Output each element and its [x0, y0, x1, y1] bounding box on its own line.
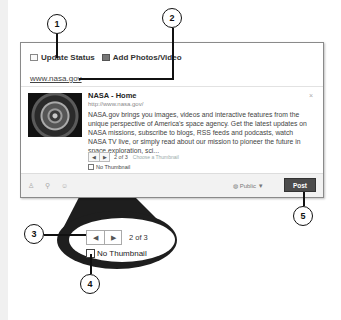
emoji-icon[interactable]: ☺	[61, 182, 68, 190]
no-thumbnail-option[interactable]: No Thumbnail	[88, 164, 130, 170]
leader-line-3	[44, 234, 86, 236]
callout-3: 3	[24, 224, 44, 244]
thumbnail-pager-buttons: ◀ ▶	[88, 152, 110, 162]
photo-icon	[102, 54, 110, 61]
leader-line-2-h	[79, 78, 174, 80]
magnified-no-thumbnail-label: No Thumbnail	[97, 249, 147, 258]
no-thumbnail-label: No Thumbnail	[96, 164, 130, 170]
callout-1: 1	[47, 14, 67, 34]
tab-label: Update Status	[41, 53, 95, 62]
leader-line-5	[303, 192, 305, 206]
magnified-prev-button: ◀	[87, 231, 104, 244]
privacy-selector[interactable]: ◍ Public ▼	[233, 182, 264, 189]
tab-update-status[interactable]: Update Status	[30, 53, 95, 62]
status-icon	[30, 54, 38, 61]
composer-bottom-bar: ♙ ⚲ ☺ ◍ Public ▼ Post	[21, 173, 323, 197]
magnified-pager: ◀ ▶ 2 of 3	[86, 230, 148, 245]
thumbnail-pager: ◀ ▶ 2 of 3 Choose a Thumbnail	[88, 152, 179, 162]
magnified-pager-buttons: ◀ ▶	[86, 230, 122, 245]
leader-line-4	[90, 254, 92, 274]
thumbnail-count: 2 of 3	[114, 154, 128, 160]
link-preview-url: http://www.nasa.gov/	[88, 101, 312, 107]
link-preview-title[interactable]: NASA - Home	[88, 91, 312, 100]
magnified-count: 2 of 3	[129, 233, 148, 242]
callout-4: 4	[80, 274, 100, 294]
next-thumbnail-button[interactable]: ▶	[99, 153, 109, 161]
prev-thumbnail-button[interactable]: ◀	[89, 153, 99, 161]
no-thumbnail-checkbox[interactable]	[88, 164, 94, 170]
composer-actions: ♙ ⚲ ☺	[28, 182, 79, 190]
status-input[interactable]: www.nasa.gov	[30, 74, 82, 83]
divider	[21, 86, 323, 87]
magnified-pager-view: ◀ ▶ 2 of 3 No Thumbnail	[86, 230, 148, 258]
choose-thumbnail-label: Choose a Thumbnail	[133, 154, 179, 160]
post-button[interactable]: Post	[284, 178, 316, 192]
leader-line-1	[56, 34, 58, 58]
magnified-no-thumbnail: No Thumbnail	[86, 249, 148, 258]
magnified-next-button: ▶	[104, 231, 121, 244]
link-preview-description[interactable]: NASA.gov brings you images, videos and i…	[88, 110, 312, 155]
close-preview-icon[interactable]: ×	[309, 92, 313, 99]
tab-add-photos-video[interactable]: Add Photos/Video	[102, 53, 182, 62]
composer-tabs: Update Status Add Photos/Video	[30, 53, 189, 62]
tag-people-icon[interactable]: ♙	[28, 182, 34, 190]
link-preview: NASA - Home http://www.nasa.gov/ NASA.go…	[88, 91, 312, 155]
location-icon[interactable]: ⚲	[45, 182, 50, 190]
privacy-label: Public ▼	[240, 183, 264, 189]
globe-icon: ◍	[233, 183, 238, 189]
link-thumbnail-image	[28, 93, 82, 137]
callout-2: 2	[162, 8, 182, 28]
leader-line-2-v	[172, 28, 174, 78]
callout-5: 5	[293, 206, 313, 226]
